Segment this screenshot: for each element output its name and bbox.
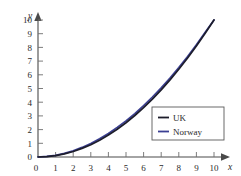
x-tick-label: 1	[53, 163, 58, 173]
x-tick-label: 7	[159, 163, 164, 173]
y-tick-label: 2	[28, 125, 33, 135]
x-tick-label: 2	[71, 163, 76, 173]
chart-figure: y x 0 1 2 3	[0, 0, 241, 176]
y-tick-label: 1	[28, 139, 33, 149]
y-tick-label: 8	[28, 43, 33, 53]
legend-label-norway: Norway	[173, 127, 202, 137]
y-tick-0: 0	[28, 152, 33, 162]
x-tick-label: 9	[194, 163, 199, 173]
x-tick-label: 3	[89, 163, 94, 173]
x-tick-label: 4	[106, 163, 111, 173]
x-tick-label: 0	[34, 163, 39, 173]
legend-label-uk: UK	[173, 113, 186, 123]
y-tick-label: 6	[28, 70, 33, 80]
y-tick-label: 3	[28, 111, 33, 121]
y-tick-label: 7	[28, 56, 33, 66]
x-tick-label: 5	[124, 163, 129, 173]
x-tick-label: 8	[177, 163, 182, 173]
x-tick-0: 0	[34, 163, 39, 173]
chart-legend: UK Norway	[152, 107, 224, 140]
x-tick-label: 10	[210, 163, 220, 173]
x-tick-label: 6	[141, 163, 146, 173]
line-chart: y x 0 1 2 3	[0, 0, 241, 176]
y-tick-label: 4	[28, 98, 33, 108]
y-tick-label: 0	[28, 152, 33, 162]
y-tick-label: 10	[23, 15, 33, 25]
y-tick-label: 9	[28, 29, 33, 39]
chart-background	[0, 0, 241, 176]
y-tick-label: 5	[28, 84, 33, 94]
x-axis-label: x	[227, 162, 233, 172]
